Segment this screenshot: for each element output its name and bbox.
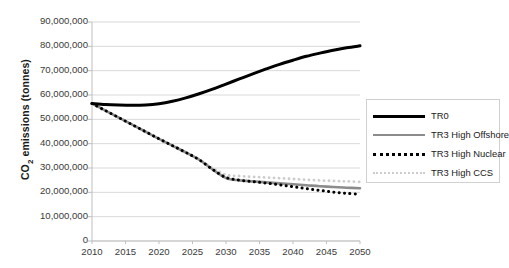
legend-label: TR3 High CCS [431,167,493,178]
legend-item-tr3-high-offshore[interactable]: TR3 High Offshore [373,125,509,143]
x-axis-tick-label: 2050 [340,246,380,257]
chart-legend: TR0TR3 High OffshoreTR3 High NuclearTR3 … [366,99,500,183]
legend-swatch-dotted-black [373,148,425,159]
legend-swatch-line [373,134,425,136]
legend-swatch-line [373,153,425,156]
series-line-tr3-high-offshore [92,104,360,189]
legend-item-tr0[interactable]: TR0 [373,106,449,124]
legend-label: TR3 High Offshore [431,129,509,140]
legend-label: TR3 High Nuclear [431,148,506,159]
series-line-tr0 [92,46,360,105]
series-line-tr3-high-ccs [92,104,360,182]
legend-item-tr3-high-ccs[interactable]: TR3 High CCS [373,163,493,181]
legend-item-tr3-high-nuclear[interactable]: TR3 High Nuclear [373,144,506,162]
legend-label: TR0 [431,110,449,121]
legend-swatch-solid-black [373,110,425,121]
legend-swatch-line [373,172,425,174]
legend-swatch-line [373,115,425,118]
legend-swatch-dotted-lightgray [373,167,425,178]
legend-swatch-solid-gray [373,129,425,140]
